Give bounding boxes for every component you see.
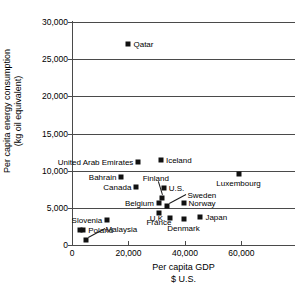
y-axis-title: Per capita energy consumption (kg oil eq… [2, 6, 24, 216]
data-point-marker [83, 237, 88, 242]
y-tick-label: 10,000 [42, 166, 68, 175]
data-point-label: Slovenia [72, 216, 103, 225]
y-tick-mark [68, 134, 72, 135]
x-tick-label: 60,000 [228, 249, 254, 258]
x-axis-title-line2: $ U.S. [72, 274, 295, 286]
y-tick-mark [68, 208, 72, 209]
grid-line [72, 22, 295, 23]
data-point-label: Finland [143, 174, 169, 183]
data-point-label: Bahrain [89, 172, 117, 181]
y-tick-mark [68, 171, 72, 172]
x-tick-mark [185, 241, 186, 246]
data-point-label: Malaysia [106, 224, 138, 233]
x-tick-label: 40,000 [172, 249, 198, 258]
data-point-marker [198, 214, 203, 219]
y-tick-label: 5,000 [47, 203, 68, 212]
data-point-marker [126, 42, 131, 47]
scatter-chart: 05,00010,00015,00020,00025,00030,000 020… [0, 0, 305, 298]
x-axis-title: Per capita GDP $ U.S. [72, 262, 295, 285]
y-tick-label: 30,000 [42, 18, 68, 27]
grid-line [72, 59, 295, 60]
data-point-marker [161, 185, 166, 190]
y-tick-label: 25,000 [42, 55, 68, 64]
data-point-marker [136, 159, 141, 164]
y-axis-title-line2: (kg oil equivalent) [13, 6, 24, 216]
x-tick-label: 20,000 [115, 249, 141, 258]
plot-area [72, 22, 295, 245]
data-point-label: Luxembourg [216, 179, 260, 188]
y-tick-label: 15,000 [42, 129, 68, 138]
x-tick-mark [241, 241, 242, 246]
data-point-label: Qatar [133, 40, 153, 49]
data-point-marker [156, 200, 161, 205]
data-point-marker [168, 216, 173, 221]
data-point-marker [158, 157, 163, 162]
data-point-label: Canada [103, 183, 131, 192]
data-point-label: U.S. [169, 183, 185, 192]
data-point-marker [236, 172, 241, 177]
data-point-marker [77, 228, 82, 233]
grid-line [72, 208, 295, 209]
x-axis-line [72, 245, 295, 246]
x-tick-label: 0 [70, 249, 75, 258]
y-tick-mark [68, 245, 72, 246]
data-point-marker [181, 216, 186, 221]
y-tick-mark [68, 96, 72, 97]
x-axis-title-line1: Per capita GDP [72, 262, 295, 274]
data-point-label: Norway [189, 198, 216, 207]
x-tick-mark [128, 241, 129, 246]
data-point-label: U.K. [150, 214, 166, 223]
grid-line [72, 134, 295, 135]
data-point-label: United Arab Emirates [58, 157, 134, 166]
data-point-label: Japan [205, 212, 227, 221]
data-point-label: Belgium [125, 198, 154, 207]
y-axis-line [72, 21, 73, 246]
data-point-marker [119, 174, 124, 179]
y-tick-mark [68, 22, 72, 23]
data-point-label: Denmark [167, 224, 199, 233]
data-point-marker [105, 218, 110, 223]
y-tick-label: 20,000 [42, 92, 68, 101]
y-axis-title-line1: Per capita energy consumption [2, 6, 13, 216]
data-point-label: Iceland [166, 155, 192, 164]
data-point-marker [134, 185, 139, 190]
y-tick-mark [68, 59, 72, 60]
grid-line [72, 96, 295, 97]
data-point-marker [181, 200, 186, 205]
